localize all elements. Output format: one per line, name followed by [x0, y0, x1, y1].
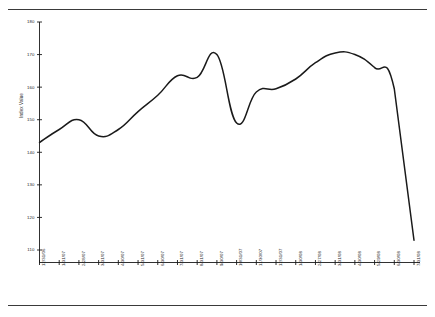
plot-area	[0, 0, 435, 317]
data-series-line	[40, 52, 415, 240]
chart-figure: Index Value 110120130140150160170180 12/…	[0, 0, 435, 317]
